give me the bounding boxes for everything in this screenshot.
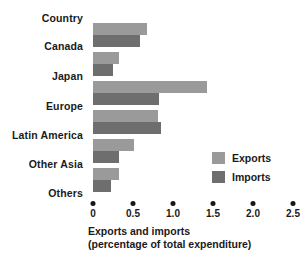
bar-exports-others [93,168,119,180]
legend-item-exports: Exports [212,150,271,166]
category-label-europe: Europe [0,100,83,112]
category-label-japan: Japan [0,70,83,82]
legend: Exports Imports [212,150,271,188]
x-tick-label-0: 0 [90,208,96,219]
x-tick-dot-2.5 [291,201,296,206]
x-axis-title: Exports and imports (percentage of total… [88,225,251,251]
x-tick-label-0.5: 0.5 [126,208,140,219]
bar-imports-latin-america [93,122,161,134]
bar-imports-other-asia [93,151,119,163]
bar-exports-other-asia [93,139,134,151]
bar-imports-others [93,180,111,192]
x-tick-label-2.0: 2.0 [246,208,260,219]
legend-swatch-imports-icon [212,171,225,183]
bar-imports-europe [93,93,159,105]
x-tick-label-2.5: 2.5 [286,208,300,219]
category-label-latin-america: Latin America [0,129,83,141]
bar-imports-canada [93,35,140,47]
legend-item-imports: Imports [212,169,271,185]
bar-exports-latin-america [93,110,158,122]
bar-exports-japan [93,52,119,64]
legend-label-imports: Imports [232,171,271,183]
x-axis-title-line-1: Exports and imports [88,225,251,238]
category-label-others: Others [0,187,83,199]
x-tick-dot-2.0 [251,201,256,206]
x-tick-dot-0 [91,201,96,206]
bar-exports-europe [93,81,207,93]
x-axis-title-line-2: (percentage of total expenditure) [88,238,251,251]
category-label-canada: Canada [0,40,83,52]
x-tick-dot-1.0 [171,201,176,206]
legend-label-exports: Exports [232,152,271,164]
x-tick-dot-0.5 [131,201,136,206]
axis-header-label: Country [0,12,83,24]
x-tick-label-1.0: 1.0 [166,208,180,219]
x-tick-label-1.5: 1.5 [206,208,220,219]
category-label-other-asia: Other Asia [0,158,83,170]
bar-chart: Country Canada Japan Europe Latin Americ… [0,0,305,257]
legend-swatch-exports-icon [212,152,225,164]
bar-imports-japan [93,64,113,76]
bar-exports-canada [93,23,147,35]
x-tick-dot-1.5 [211,201,216,206]
